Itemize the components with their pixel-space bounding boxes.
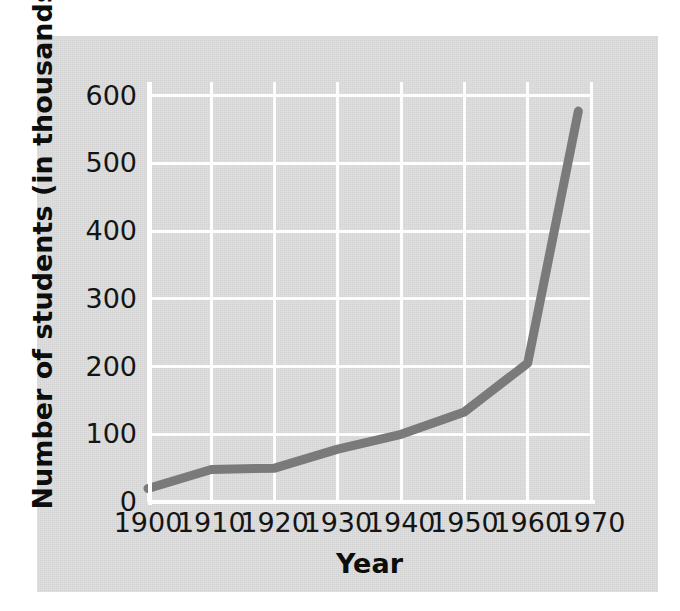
x-axis-title: Year bbox=[148, 548, 591, 579]
x-axis-tick-labels: 19001910192019301940195019601970 bbox=[0, 0, 680, 611]
y-axis-title: Number of students (in thousands) bbox=[27, 90, 58, 510]
chart-figure: 0100200300400500600 19001910192019301940… bbox=[0, 0, 680, 611]
x-tick-label: 1970 bbox=[541, 509, 641, 536]
